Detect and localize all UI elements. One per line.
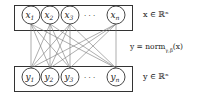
operation-text: y = norm — [130, 42, 165, 51]
operation-subscript: γ,β — [165, 47, 172, 53]
operation-arg: (x) — [173, 42, 183, 51]
operation-annotation: y = normγ,β(x) — [130, 42, 183, 53]
input-annotation: x ∈ ℝⁿ — [143, 10, 169, 19]
input-ellipsis: · · · — [84, 12, 95, 20]
output-annotation: y ∈ ℝⁿ — [143, 72, 169, 81]
output-ellipsis: · · · — [84, 74, 95, 82]
